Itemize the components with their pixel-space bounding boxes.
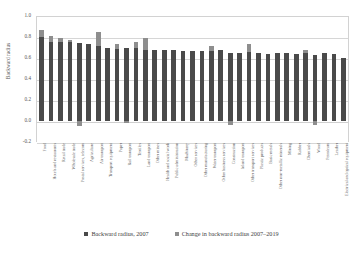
bar-column[interactable]	[86, 16, 91, 142]
bar-segment-base	[218, 50, 223, 121]
bar-segment-change-positive	[247, 44, 252, 51]
x-tick-label: Wood	[317, 143, 321, 153]
bar-column[interactable]	[181, 16, 186, 142]
bar-segment-base	[134, 48, 139, 122]
bar-column[interactable]	[266, 16, 271, 142]
y-tick-label: 1.0	[25, 13, 31, 18]
x-tick-label: Petroleum	[326, 143, 330, 160]
x-tick-label: Mining	[288, 143, 292, 155]
x-tick-label: Hotels and restaurants	[53, 143, 57, 179]
y-tick-label: 0.2	[25, 97, 31, 102]
bar-column[interactable]	[162, 16, 167, 142]
bar-segment-base	[171, 50, 176, 121]
bar-segment-base	[266, 54, 271, 121]
legend-item-change-2007-2019[interactable]: Change in backward radius 2007–2019	[175, 231, 279, 237]
x-tick-label: Basic metals	[269, 143, 273, 164]
legend-item-backward-radius-2007[interactable]: Backward radius, 2007	[84, 231, 148, 237]
bar-segment-base	[105, 48, 110, 122]
bar-column[interactable]	[341, 16, 346, 142]
bar-segment-base	[77, 43, 82, 121]
bar-column[interactable]	[39, 16, 44, 142]
x-tick-label: Food	[43, 143, 47, 151]
bar-segment-base	[247, 52, 252, 121]
bar-column[interactable]	[322, 16, 327, 142]
x-tick-label: Transport equipment	[109, 143, 113, 177]
bar-segment-base	[322, 53, 327, 121]
x-tick-label: Other non-metallic minerals	[279, 143, 283, 189]
bar-column[interactable]	[124, 16, 129, 142]
bar-segment-base	[294, 54, 299, 121]
x-tick-label: Other services	[194, 143, 198, 167]
legend-swatch-change	[175, 232, 179, 236]
bar-segment-base	[190, 51, 195, 121]
x-tick-label: Agriculture	[90, 143, 94, 162]
x-tick-label: Construction	[232, 143, 236, 164]
bar-column[interactable]	[49, 16, 54, 142]
x-tick-label: Other business services	[222, 143, 226, 181]
y-tick-label: -0.2	[23, 139, 31, 144]
bar-column[interactable]	[68, 16, 73, 142]
bar-segment-change-negative	[77, 121, 82, 126]
bar-segment-base	[58, 42, 63, 121]
bar-segment-base	[303, 53, 308, 121]
x-tick-label: Other transport services	[251, 143, 255, 182]
bar-segment-base	[284, 53, 289, 121]
bar-series-group	[37, 16, 348, 142]
bar-column[interactable]	[218, 16, 223, 142]
bar-column[interactable]	[247, 16, 252, 142]
x-tick-label: Retail trade	[62, 143, 66, 162]
x-tick-label: Machinery	[185, 143, 189, 161]
bar-segment-base	[341, 58, 346, 121]
bar-segment-base	[68, 42, 73, 121]
bar-column[interactable]	[77, 16, 82, 142]
bar-segment-change-negative	[228, 121, 233, 125]
x-tick-label: Health and social work	[166, 143, 170, 181]
y-axis-ticks: 1.00.80.60.40.20.0-0.2	[0, 16, 34, 142]
bar-column[interactable]	[152, 16, 157, 142]
x-tick-label: Wholesale trade	[72, 143, 76, 169]
bar-column[interactable]	[200, 16, 205, 142]
bar-column[interactable]	[237, 16, 242, 142]
chart-legend: Backward radius, 2007 Change in backward…	[0, 231, 363, 237]
x-tick-label: Public administration	[175, 143, 179, 178]
bar-column[interactable]	[96, 16, 101, 142]
bar-column[interactable]	[332, 16, 337, 142]
bar-column[interactable]	[58, 16, 63, 142]
bar-column[interactable]	[294, 16, 299, 142]
y-tick-label: 0.4	[25, 76, 31, 81]
legend-swatch-base	[84, 232, 88, 236]
bar-segment-base	[152, 50, 157, 121]
bar-column[interactable]	[143, 16, 148, 142]
x-tick-label: Paper	[119, 143, 123, 152]
bar-segment-base	[124, 48, 129, 122]
bar-segment-base	[313, 55, 318, 121]
x-tick-label: Plastic products	[260, 143, 264, 169]
x-tick-label: Textiles	[138, 143, 142, 156]
bar-segment-base	[275, 53, 280, 121]
bar-column[interactable]	[303, 16, 308, 142]
bar-segment-change-positive	[96, 32, 101, 47]
bar-column[interactable]	[275, 16, 280, 142]
bar-segment-change-positive	[68, 40, 73, 42]
bar-column[interactable]	[171, 16, 176, 142]
bar-column[interactable]	[284, 16, 289, 142]
bar-segment-base	[115, 49, 120, 121]
bar-segment-change-negative	[124, 121, 129, 123]
x-tick-label: Inland transport	[241, 143, 245, 169]
bar-segment-base	[86, 44, 91, 121]
bar-column[interactable]	[115, 16, 120, 142]
bar-column[interactable]	[134, 16, 139, 142]
bar-segment-change-positive	[58, 38, 63, 42]
bar-column[interactable]	[313, 16, 318, 142]
bar-segment-base	[162, 50, 167, 121]
bar-segment-change-positive	[49, 36, 54, 42]
bar-column[interactable]	[105, 16, 110, 142]
bar-column[interactable]	[256, 16, 261, 142]
bar-segment-base	[39, 37, 44, 121]
bar-segment-base	[49, 42, 54, 121]
bar-column[interactable]	[228, 16, 233, 142]
x-tick-label: Other mines	[156, 143, 160, 163]
bar-column[interactable]	[209, 16, 214, 142]
bar-column[interactable]	[190, 16, 195, 142]
x-tick-label: Electrical and optical equipment	[345, 143, 349, 196]
